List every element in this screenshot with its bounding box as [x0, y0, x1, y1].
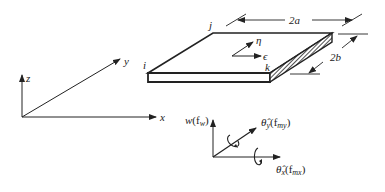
theta-y-axis [213, 128, 256, 157]
w-dof-label: w(fw) [185, 114, 209, 128]
z-axis-label: z [25, 72, 31, 84]
epsilon-label: ϵ [263, 50, 268, 62]
eta-label: η [256, 34, 261, 46]
dim-2b-label: 2b [330, 51, 342, 63]
dof-axes: w(fw) θ̂y(fmy) θ̂x(fmx) [185, 114, 306, 177]
dim-2b-arrow-bottom [309, 62, 323, 73]
plate-front-face [148, 73, 270, 82]
plate-element: i j k η ϵ 2a 2b [143, 14, 368, 82]
dim-2b-arrow-top [342, 36, 357, 48]
node-j-label: j [207, 19, 212, 31]
x-axis-label: x [159, 111, 165, 123]
node-i-label: i [143, 59, 146, 71]
y-axis-label: y [123, 55, 129, 67]
dim-2a-label: 2a [289, 14, 301, 26]
theta-y-dof-label: θ̂y(fmy) [261, 116, 291, 130]
y-axis [22, 59, 120, 117]
plate-element-diagram: z x y i j k η ϵ 2a 2b [0, 0, 385, 192]
theta-x-dof-label: θ̂x(fmx) [276, 163, 306, 177]
